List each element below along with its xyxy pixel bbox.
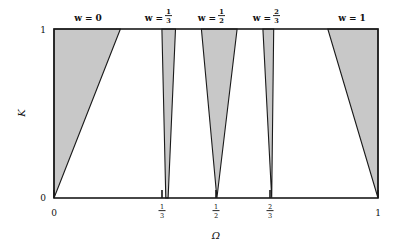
arnold-tongues-figure: 0 1 3 1 2 2 3 1 0 1 Ω K bbox=[0, 0, 401, 249]
tongue-label-w-2-3-equals: = bbox=[263, 13, 271, 23]
x-tick-label-1-3-numerator: 1 bbox=[160, 203, 164, 211]
y-tick-label-1: 1 bbox=[40, 25, 46, 35]
x-tick-label-1-2: 1 2 bbox=[213, 203, 220, 220]
tongue-label-w-2-3: w= 2 3 bbox=[252, 8, 280, 25]
tongue-label-w-1-3-text: w= bbox=[144, 13, 163, 23]
plot-canvas: 0 1 3 1 2 2 3 1 0 1 Ω K bbox=[0, 0, 401, 249]
tongue-label-w-2-3-symbol: w bbox=[252, 13, 261, 23]
tongue-labels: w=0 w= 1 3 w= 1 2 w= 2 3 bbox=[73, 8, 366, 25]
tongue-label-w-1-3: w= 1 3 bbox=[144, 8, 172, 25]
tongue-label-w-1-2-denominator: 2 bbox=[219, 17, 224, 25]
y-axis-title: K bbox=[16, 109, 27, 118]
tongue-label-w-2-3-numerator: 2 bbox=[274, 8, 279, 16]
tongue-label-w-0: w=0 bbox=[73, 13, 102, 23]
x-tick-label-2-3: 2 3 bbox=[267, 203, 274, 220]
tongue-label-w-1-2-symbol: w bbox=[197, 13, 206, 23]
x-tick-label-1-3-denominator: 3 bbox=[160, 212, 164, 220]
tongue-label-w-2-3-text: w= bbox=[252, 13, 271, 23]
tongue-label-w-1-2-equals: = bbox=[208, 13, 216, 23]
tongue-label-w-1-equals: = bbox=[349, 13, 357, 23]
tongue-label-w-1-text: w=1 bbox=[337, 13, 366, 23]
tongue-label-w-1-2-numerator: 1 bbox=[219, 8, 224, 16]
tongue-label-w-1-3-numerator: 1 bbox=[166, 8, 171, 16]
x-tick-label-1: 1 bbox=[375, 208, 381, 218]
x-tick-label-1-2-numerator: 1 bbox=[214, 203, 218, 211]
tongue-label-w-1-2-text: w= bbox=[197, 13, 216, 23]
tongue-label-w-1-3-denominator: 3 bbox=[166, 17, 171, 25]
tongue-label-w-1-3-equals: = bbox=[155, 13, 163, 23]
tongue-label-w-0-equals: = bbox=[85, 13, 93, 23]
x-tick-label-1-2-denominator: 2 bbox=[214, 212, 218, 220]
tongue-label-w-1-2: w= 1 2 bbox=[197, 8, 225, 25]
tongue-label-w-1-symbol: w bbox=[337, 13, 346, 23]
x-tick-label-2-3-denominator: 3 bbox=[268, 212, 272, 220]
y-axis-tick-labels: 0 1 bbox=[40, 25, 46, 203]
x-tick-label-0: 0 bbox=[51, 208, 57, 218]
y-tick-label-0: 0 bbox=[40, 193, 46, 203]
x-axis-title: Ω bbox=[211, 230, 220, 241]
x-axis-tick-labels: 0 1 3 1 2 2 3 1 bbox=[51, 203, 381, 220]
tongue-label-w-1-value: 1 bbox=[360, 13, 366, 23]
tongue-label-w-0-symbol: w bbox=[73, 13, 82, 23]
tongue-label-w-2-3-denominator: 3 bbox=[274, 17, 279, 25]
tongue-label-w-0-value: 0 bbox=[96, 13, 102, 23]
tongue-label-w-1: w=1 bbox=[337, 13, 366, 23]
tongue-label-w-0-text: w=0 bbox=[73, 13, 102, 23]
x-tick-label-2-3-numerator: 2 bbox=[268, 203, 272, 211]
x-tick-label-1-3: 1 3 bbox=[159, 203, 166, 220]
tongue-label-w-1-3-symbol: w bbox=[144, 13, 153, 23]
